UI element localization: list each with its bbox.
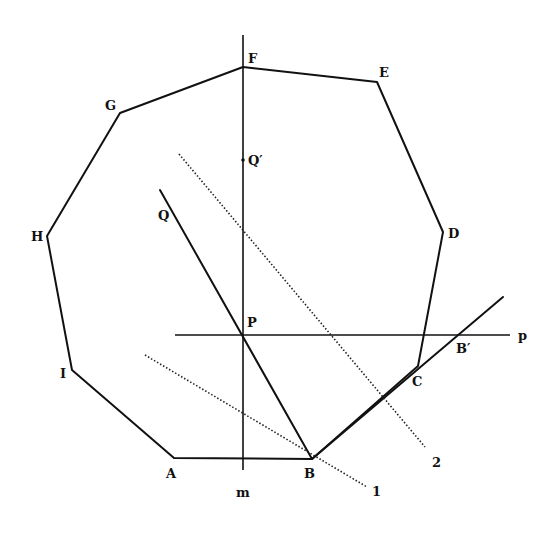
line-label-1: 1 bbox=[372, 484, 381, 499]
point-label-q-prime: Q′ bbox=[248, 153, 263, 168]
point-q-prime-marker bbox=[241, 158, 245, 162]
line-q-to-b bbox=[160, 190, 312, 459]
line-label-m: m bbox=[236, 485, 250, 500]
vertex-label-a: A bbox=[165, 466, 177, 481]
nonagon-outline bbox=[47, 67, 443, 459]
vertex-label-h: H bbox=[31, 229, 43, 244]
ray-b-through-b-prime bbox=[312, 297, 503, 459]
vertex-label-i: I bbox=[60, 366, 66, 381]
nonagon-construction-diagram: ABCDEFGHImp12PQQ′B′ bbox=[0, 0, 554, 535]
point-label-b-prime: B′ bbox=[456, 341, 471, 356]
vertex-label-e: E bbox=[379, 65, 389, 80]
line-label-p: p bbox=[518, 328, 527, 343]
vertex-label-f: F bbox=[248, 51, 258, 66]
line-label-2: 2 bbox=[432, 455, 441, 470]
vertex-label-c: C bbox=[412, 374, 422, 389]
vertex-label-b: B bbox=[304, 466, 315, 481]
point-label-q: Q bbox=[158, 208, 169, 223]
dotted-line-2 bbox=[179, 154, 425, 447]
point-label-p: P bbox=[247, 315, 257, 330]
vertex-label-g: G bbox=[105, 98, 116, 113]
dotted-line-1 bbox=[145, 355, 367, 487]
vertex-label-d: D bbox=[448, 226, 459, 241]
